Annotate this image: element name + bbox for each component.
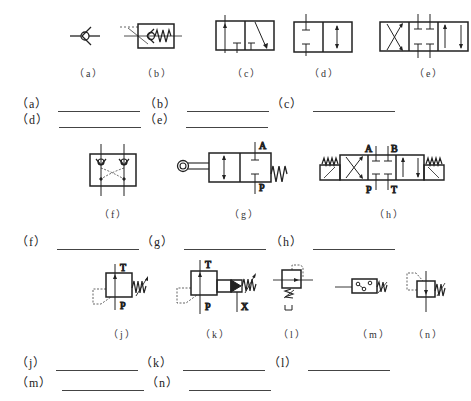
figure-caption-d: （d） (309, 65, 340, 80)
figure-caption-l: （l） (278, 326, 307, 341)
port-label-h-t: T (391, 184, 397, 195)
answer-k: （k） (140, 353, 265, 371)
answer-label-c: （c） (271, 94, 303, 112)
answer-blank-g[interactable] (184, 239, 266, 250)
pressure-switch-symbol-m (334, 278, 394, 300)
answer-label-n: （n） (146, 373, 179, 391)
port-label-h-p: P (366, 184, 372, 195)
three-position-valve-symbol-e (378, 10, 470, 58)
answer-j: （j） (16, 353, 138, 371)
port-label-g-p: P (259, 182, 265, 193)
answer-label-l: （l） (268, 353, 298, 371)
answer-label-h: （h） (270, 232, 303, 250)
answer-label-k: （k） (140, 353, 173, 371)
answer-blank-l[interactable] (308, 360, 390, 371)
answer-blank-h[interactable] (313, 239, 395, 250)
sequence-valve-symbol-n (404, 268, 456, 316)
answer-label-g: （g） (141, 232, 174, 250)
answer-blank-m[interactable] (62, 380, 144, 391)
answer-d: （d） (16, 110, 141, 128)
figure-caption-g: （g） (229, 206, 260, 221)
pilot-relief-valve-symbol-k: T P X (174, 258, 274, 316)
port-label-j-t: T (120, 262, 126, 273)
check-valve-symbol-a (68, 22, 104, 50)
answer-label-d: （d） (16, 110, 49, 128)
port-label-k-x: X (241, 301, 249, 312)
port-label-k-t: T (205, 259, 211, 270)
answer-blank-f[interactable] (57, 239, 139, 250)
answer-h: （h） (270, 232, 395, 250)
spring-check-valve-symbol-b (120, 20, 184, 52)
answer-l: （l） (268, 353, 390, 371)
answer-f: （f） (16, 232, 139, 250)
answer-g: （g） (141, 232, 266, 250)
answer-blank-c[interactable] (313, 101, 395, 112)
port-label-h-a: A (365, 143, 373, 154)
figure-caption-f: （f） (99, 206, 128, 221)
port-label-j-p: P (120, 300, 126, 311)
figure-caption-a: （a） (74, 65, 104, 80)
figure-caption-k: （k） (200, 326, 231, 341)
figure-caption-b: （b） (142, 65, 173, 80)
roller-operated-valve-symbol-g: A P (172, 138, 292, 202)
answer-c: （c） (271, 94, 395, 112)
answer-blank-n[interactable] (189, 380, 271, 391)
port-label-g-a: A (259, 140, 267, 151)
figure-caption-m: （m） (357, 326, 391, 341)
figure-caption-c: （c） (232, 65, 262, 80)
answer-blank-j[interactable] (56, 360, 138, 371)
answer-blank-d[interactable] (59, 117, 141, 128)
relief-valve-symbol-j: T P (90, 262, 152, 314)
two-position-valve-symbol-c (214, 12, 278, 52)
figure-caption-n: （n） (413, 326, 444, 341)
two-way-valve-symbol-d (292, 12, 356, 54)
answer-label-f: （f） (16, 232, 47, 250)
port-label-h-b: B (391, 143, 398, 154)
answer-m: （m） (16, 373, 144, 391)
solenoid-valve-symbol-h: A B P T (318, 138, 448, 196)
figure-caption-h: （h） (374, 206, 405, 221)
figure-caption-e: （e） (414, 65, 444, 80)
answer-label-m: （m） (16, 373, 52, 391)
port-label-k-p: P (205, 301, 211, 312)
pressure-reducing-valve-symbol-l (272, 264, 320, 316)
answer-label-j: （j） (16, 353, 46, 371)
answer-e: （e） (144, 110, 268, 128)
dual-pilot-check-valve-symbol-f (88, 142, 140, 198)
answer-label-e: （e） (144, 110, 176, 128)
answer-blank-e[interactable] (186, 117, 268, 128)
answer-blank-k[interactable] (183, 360, 265, 371)
answer-n: （n） (146, 373, 271, 391)
figure-caption-j: （j） (108, 326, 137, 341)
